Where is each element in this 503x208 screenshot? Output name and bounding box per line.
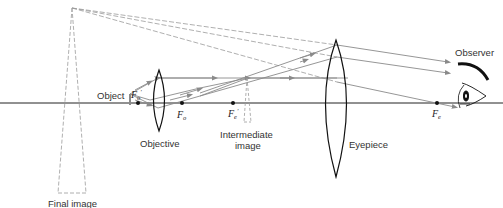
label-observer: Observer xyxy=(455,47,494,58)
virtual-rays xyxy=(72,8,337,82)
label-intermediate-1: Intermediate xyxy=(220,129,273,140)
focal-dot-fe xyxy=(435,101,439,105)
label-eyepiece: Eyepiece xyxy=(349,139,388,150)
label-fe: Fe xyxy=(431,108,441,120)
focal-dot-fo xyxy=(180,101,184,105)
label-final-image: Final image xyxy=(48,198,97,208)
label-fe-prime: Fe′ xyxy=(227,107,239,120)
output-rays xyxy=(337,45,455,107)
label-object: Object xyxy=(97,90,125,101)
label-fo: Fo xyxy=(176,109,187,121)
focal-dot-fo-prime xyxy=(136,101,140,105)
eyepiece-lens xyxy=(326,40,347,177)
label-intermediate-2: image xyxy=(235,140,261,151)
microscope-diagram: Fo′ Fo Fe′ Fe Object Objective Intermedi… xyxy=(0,0,503,208)
eye-icon xyxy=(458,64,488,108)
focal-dot-fe-prime xyxy=(231,101,235,105)
label-objective: Objective xyxy=(140,138,180,149)
final-image-shape xyxy=(58,8,86,193)
intermediate-image-shape xyxy=(244,78,251,122)
